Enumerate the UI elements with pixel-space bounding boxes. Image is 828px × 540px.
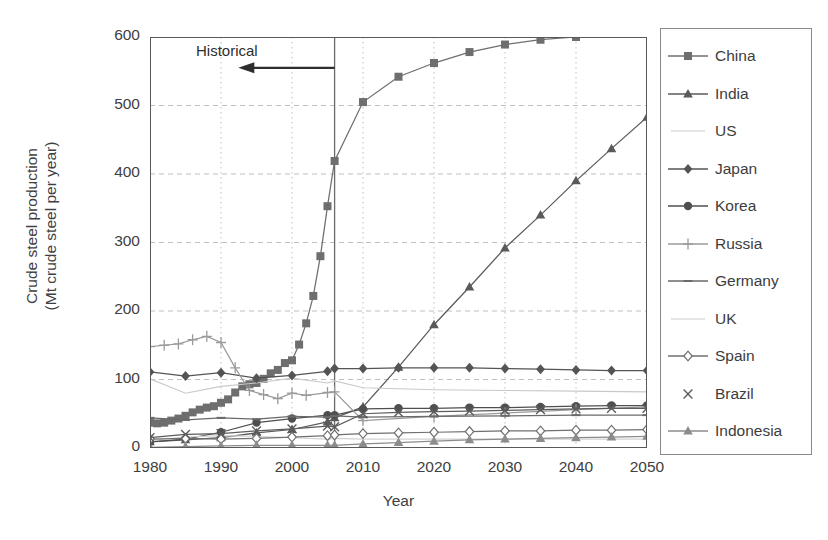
legend-marker-filled-triangle-icon — [661, 413, 715, 449]
x-axis-title: Year — [150, 492, 647, 510]
legend-label: Korea — [715, 197, 756, 215]
legend-label: Spain — [715, 347, 755, 365]
y-tick-label: 500 — [88, 95, 140, 113]
legend-marker-circle-icon — [661, 188, 715, 224]
legend-label: Brazil — [715, 385, 754, 403]
legend-item-uk[interactable]: UK — [661, 301, 813, 337]
legend-label: Indonesia — [715, 422, 782, 440]
marker-circle — [684, 202, 692, 210]
marker-diamond — [684, 164, 693, 174]
legend-marker-plus-icon — [661, 226, 715, 262]
y-axis-title-line-1: Crude steel production — [22, 86, 41, 366]
x-tick-label: 2030 — [475, 458, 535, 476]
marker-plus — [683, 238, 693, 249]
y-tick-label: 0 — [88, 437, 140, 455]
legend-marker-dash-icon — [661, 263, 715, 299]
legend-label: India — [715, 85, 749, 103]
legend-marker-faint-line-icon — [661, 113, 715, 149]
x-tick-label: 2020 — [404, 458, 464, 476]
marker-triangle — [683, 89, 693, 98]
x-tick-label: 1980 — [120, 458, 180, 476]
legend-label: US — [715, 122, 737, 140]
y-axis-title-line-2: (Mt crude steel per year) — [41, 86, 60, 366]
historical-annotation-label: Historical — [196, 42, 258, 59]
chart-legend: ChinaIndiaUSJapanKoreaRussiaGermanyUKSpa… — [660, 28, 812, 455]
legend-label: UK — [715, 310, 737, 328]
legend-marker-x-icon — [661, 376, 715, 412]
legend-item-us[interactable]: US — [661, 113, 813, 149]
plot-frame — [150, 37, 647, 448]
y-axis-title: Crude steel production (Mt crude steel p… — [22, 86, 82, 366]
legend-item-india[interactable]: India — [661, 76, 813, 112]
marker-open-diamond — [684, 351, 692, 361]
x-tick-label: 2010 — [333, 458, 393, 476]
legend-marker-square-icon — [661, 38, 715, 74]
legend-marker-faint-line-icon — [661, 301, 715, 337]
y-tick-label: 100 — [88, 369, 140, 387]
legend-marker-diamond-icon — [661, 151, 715, 187]
y-tick-label: 300 — [88, 232, 140, 250]
x-tick-label: 2000 — [262, 458, 322, 476]
y-tick-label: 400 — [88, 163, 140, 181]
x-tick-label: 2050 — [617, 458, 677, 476]
legend-label: Germany — [715, 272, 779, 290]
legend-item-korea[interactable]: Korea — [661, 188, 813, 224]
x-tick-label: 2040 — [546, 458, 606, 476]
x-tick-label: 1990 — [191, 458, 251, 476]
legend-label: Japan — [715, 160, 757, 178]
legend-item-russia[interactable]: Russia — [661, 226, 813, 262]
y-tick-label: 200 — [88, 300, 140, 318]
legend-marker-triangle-icon — [661, 76, 715, 112]
legend-item-japan[interactable]: Japan — [661, 151, 813, 187]
marker-x — [684, 389, 693, 398]
marker-triangle — [683, 426, 693, 435]
legend-item-germany[interactable]: Germany — [661, 263, 813, 299]
chart-figure: Crude steel production (Mt crude steel p… — [0, 0, 828, 540]
legend-item-brazil[interactable]: Brazil — [661, 376, 813, 412]
legend-item-indonesia[interactable]: Indonesia — [661, 413, 813, 449]
legend-label: China — [715, 47, 756, 65]
legend-item-spain[interactable]: Spain — [661, 338, 813, 374]
legend-item-china[interactable]: China — [661, 38, 813, 74]
plot-area — [150, 37, 647, 448]
y-tick-label: 600 — [88, 26, 140, 44]
legend-label: Russia — [715, 235, 762, 253]
marker-square — [684, 52, 692, 60]
legend-marker-open-diamond-icon — [661, 338, 715, 374]
